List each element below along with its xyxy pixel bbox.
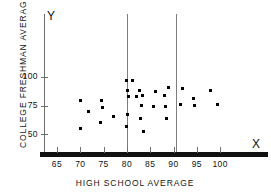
data-point [142,130,145,133]
data-point [125,125,128,128]
data-point [154,90,157,93]
y-tick-mark-100 [41,77,48,78]
data-point [141,94,144,97]
y-tick-label-100: 100 [14,72,38,81]
data-point [192,97,195,100]
x-tick-label-70: 70 [68,160,92,169]
x-axis-label: HIGH SCHOOL AVERAGE [40,178,230,188]
data-point [101,106,104,109]
x-tick-mark-90 [174,147,175,153]
scatter-plot-figure: COLLEGE FRESHMAN AVERAGE HIGH SCHOOL AVE… [0,0,271,195]
data-point [193,104,196,107]
data-point [131,79,134,82]
x-tick-mark-85 [150,147,151,153]
data-point [125,79,128,82]
x-tick-mark-95 [197,147,198,153]
data-point [138,89,141,92]
x-tick-mark-100 [220,147,221,153]
x-tick-label-80: 80 [115,160,139,169]
x-axis-letter: X [252,138,260,150]
data-point [135,95,138,98]
data-point [87,110,90,113]
data-point [127,95,130,98]
x-tick-mark-75 [104,147,105,153]
data-point [216,103,219,106]
data-point [99,121,102,124]
x-tick-label-95: 95 [185,160,209,169]
y-tick-mark-50 [41,134,48,135]
data-point [112,115,115,118]
y-tick-mark-75 [41,106,48,107]
x-tick-label-100: 100 [208,160,232,169]
x-tick-label-65: 65 [45,160,69,169]
data-point [209,89,212,92]
data-point [140,104,143,107]
y-axis-line [44,14,45,153]
reference-line-0 [127,14,128,152]
data-point [163,94,166,97]
x-tick-label-85: 85 [138,160,162,169]
data-point [164,105,167,108]
data-point [165,117,168,120]
data-point [79,99,82,102]
reference-line-1 [176,14,177,152]
data-point [179,103,182,106]
data-point [100,99,103,102]
x-axis-line [40,152,268,157]
x-tick-label-90: 90 [162,160,186,169]
x-tick-mark-65 [57,147,58,153]
data-point [181,87,184,90]
data-point [126,89,129,92]
y-tick-label-50: 50 [14,130,38,139]
x-tick-label-75: 75 [92,160,116,169]
x-tick-mark-80 [127,147,128,153]
x-tick-mark-70 [80,147,81,153]
data-point [152,105,155,108]
data-point [167,86,170,89]
data-point [139,117,142,120]
y-tick-label-75: 75 [14,101,38,110]
data-point [126,113,129,116]
data-point [79,127,82,130]
y-axis-letter: Y [47,10,55,22]
